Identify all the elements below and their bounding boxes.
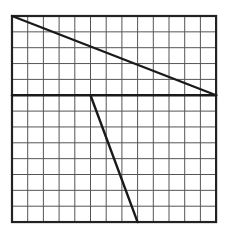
grid-diagram xyxy=(0,0,226,240)
diagonal-segment xyxy=(12,16,216,95)
grid-lines xyxy=(12,16,216,222)
grid-frame xyxy=(12,16,216,222)
line-segments xyxy=(12,16,216,222)
